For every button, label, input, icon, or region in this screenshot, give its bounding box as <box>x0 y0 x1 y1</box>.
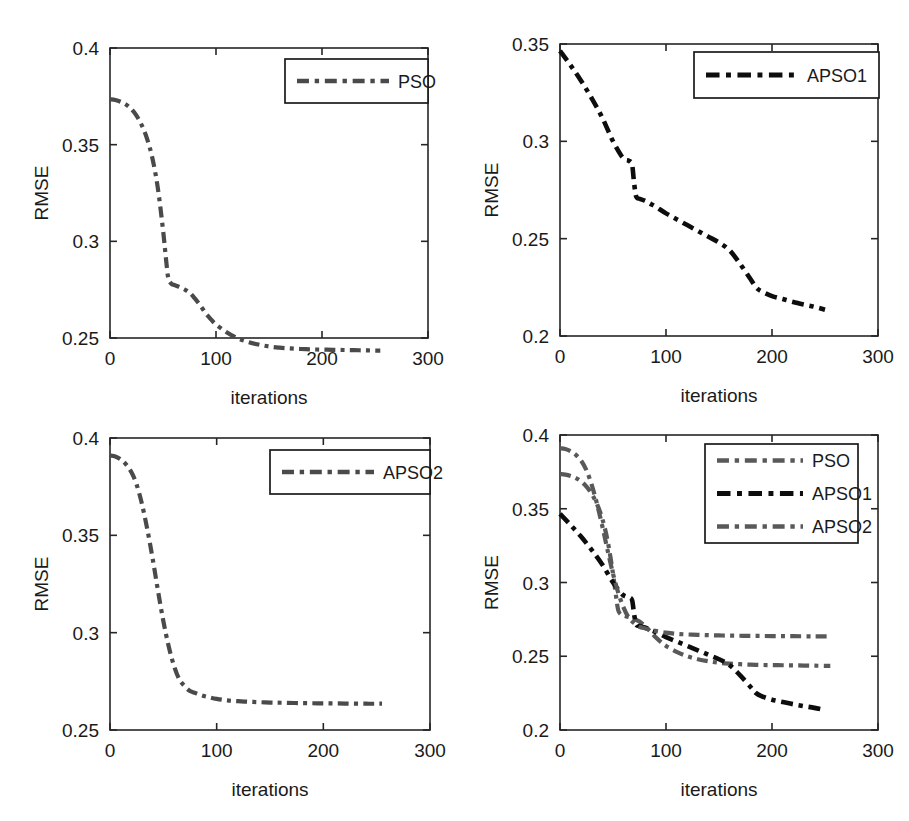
x-tick-label: 200 <box>756 740 788 761</box>
y-tick-label: 0.35 <box>512 34 549 55</box>
legend-label-apso1: APSO1 <box>812 484 872 504</box>
y-axis-title: RMSE <box>481 163 502 218</box>
y-tick-label: 0.2 <box>523 720 549 741</box>
x-tick-label: 100 <box>650 740 682 761</box>
chart-panel-top-right: 01002003000.20.250.30.35RMSEiterationsAP… <box>454 0 909 410</box>
y-tick-label: 0.3 <box>73 623 99 644</box>
x-tick-label: 0 <box>105 740 116 761</box>
y-tick-label: 0.25 <box>512 229 549 250</box>
y-tick-label: 0.35 <box>62 135 99 156</box>
x-tick-label: 100 <box>200 348 232 369</box>
chart-svg: 01002003000.20.250.30.350.4RMSEiteration… <box>454 405 909 821</box>
x-tick-label: 0 <box>105 348 116 369</box>
y-axis-title: RMSE <box>31 557 52 612</box>
chart-svg: 01002003000.250.30.350.4RMSEiterationsAP… <box>0 405 455 821</box>
y-axis-title: RMSE <box>31 166 52 221</box>
legend-label-apso1: APSO1 <box>807 66 867 86</box>
figure-canvas: 01002003000.250.30.350.4RMSEiterationsPS… <box>0 0 909 821</box>
y-tick-label: 0.2 <box>523 326 549 347</box>
legend-label-apso2: APSO2 <box>812 517 872 537</box>
x-tick-label: 200 <box>307 740 339 761</box>
y-tick-label: 0.3 <box>523 131 549 152</box>
x-tick-label: 300 <box>862 346 894 367</box>
chart-panel-bottom-right: 01002003000.20.250.30.350.4RMSEiteration… <box>454 405 909 821</box>
x-tick-label: 200 <box>756 346 788 367</box>
x-tick-label: 0 <box>555 346 566 367</box>
y-axis-title: RMSE <box>481 555 502 610</box>
chart-panel-bottom-left: 01002003000.250.30.350.4RMSEiterationsAP… <box>0 405 455 821</box>
chart-svg: 01002003000.250.30.350.4RMSEiterationsPS… <box>0 0 455 410</box>
x-tick-label: 100 <box>650 346 682 367</box>
x-axis-title: iterations <box>680 385 757 406</box>
x-axis-title: iterations <box>680 779 757 800</box>
chart-panel-top-left: 01002003000.250.30.350.4RMSEiterationsPS… <box>0 0 455 410</box>
y-tick-label: 0.4 <box>73 38 100 59</box>
legend-label-pso: PSO <box>398 72 436 92</box>
legend-label-apso2: APSO2 <box>383 463 443 483</box>
y-tick-label: 0.3 <box>73 231 99 252</box>
series-line-pso <box>110 99 380 350</box>
legend-label-pso: PSO <box>812 451 850 471</box>
x-tick-label: 0 <box>555 740 566 761</box>
x-tick-label: 300 <box>412 348 444 369</box>
x-axis-title: iterations <box>231 779 308 800</box>
y-tick-label: 0.25 <box>62 328 99 349</box>
y-tick-label: 0.35 <box>512 499 549 520</box>
y-tick-label: 0.35 <box>62 525 99 546</box>
y-tick-label: 0.25 <box>512 646 549 667</box>
chart-svg: 01002003000.20.250.30.35RMSEiterationsAP… <box>454 0 909 410</box>
x-tick-label: 300 <box>414 740 446 761</box>
x-tick-label: 300 <box>862 740 894 761</box>
y-tick-label: 0.3 <box>523 573 549 594</box>
y-tick-label: 0.25 <box>62 720 99 741</box>
x-tick-label: 100 <box>201 740 233 761</box>
y-tick-label: 0.4 <box>73 428 100 449</box>
y-tick-label: 0.4 <box>523 425 550 446</box>
